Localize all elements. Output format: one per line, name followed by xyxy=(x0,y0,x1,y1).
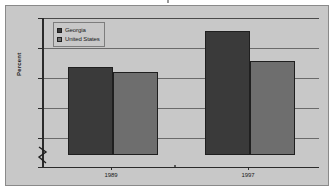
legend: Georgia United States xyxy=(53,22,105,47)
y-tick-mark-65 xyxy=(38,108,42,109)
x-tick-mark-1989 xyxy=(111,167,112,170)
bar-united-states-1989[interactable] xyxy=(113,72,158,155)
x-tick-label-1989: 1989 xyxy=(81,172,141,178)
legend-item-georgia[interactable]: Georgia xyxy=(57,26,100,34)
y-tick-mark-60 xyxy=(38,138,42,139)
x-axis-line xyxy=(42,167,319,168)
legend-item-united-states[interactable]: United States xyxy=(57,35,100,43)
gridline-80 xyxy=(42,18,319,19)
chart-frame: 80 75 70 65 60 0 Percent 1989 1997 Georg… xyxy=(5,5,329,186)
y-tick-mark-75 xyxy=(38,48,42,49)
legend-label-georgia: Georgia xyxy=(65,27,86,33)
bar-united-states-1997[interactable] xyxy=(250,61,295,155)
axis-break-icon xyxy=(36,145,50,167)
bar-georgia-1997[interactable] xyxy=(205,31,250,155)
gridline-75 xyxy=(42,48,319,49)
y-axis-title: Percent xyxy=(16,53,22,76)
baseline-center-mark xyxy=(174,165,176,167)
legend-label-united-states: United States xyxy=(65,36,100,42)
legend-swatch-georgia xyxy=(57,28,62,33)
top-edge-mark xyxy=(167,0,169,3)
bar-georgia-1989[interactable] xyxy=(68,67,113,155)
legend-swatch-united-states xyxy=(57,37,62,42)
x-tick-mark-1997 xyxy=(248,167,249,170)
y-tick-mark-70 xyxy=(38,78,42,79)
y-tick-mark-0 xyxy=(38,167,42,168)
x-tick-label-1997: 1997 xyxy=(218,172,278,178)
y-tick-mark-80 xyxy=(38,18,42,19)
